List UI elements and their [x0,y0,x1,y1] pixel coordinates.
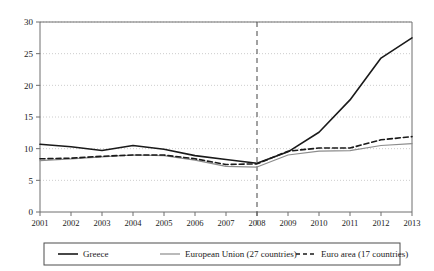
chart-background [0,0,434,271]
legend-box: GreeceEuropean Union (27 countries)Euro … [44,243,408,265]
legend-label-0: Greece [83,249,108,259]
x-tick-label-2010: 2010 [311,218,328,228]
y-tick-label-10: 10 [24,144,34,154]
y-tick-label-30: 30 [24,17,34,27]
line-chart: 051015202530 200120022003200420052006200… [0,0,434,271]
x-tick-label-2004: 2004 [125,218,143,228]
x-tick-label-2013: 2013 [404,218,421,228]
x-tick-label-2002: 2002 [63,218,80,228]
y-tick-label-20: 20 [24,81,34,91]
chart-page: 051015202530 200120022003200420052006200… [0,0,434,271]
x-tick-label-2009: 2009 [280,218,297,228]
legend-label-2: Euro area (17 countries) [321,249,408,259]
x-tick-label-2011: 2011 [342,218,359,228]
x-tick-label-2005: 2005 [156,218,173,228]
x-tick-label-2003: 2003 [94,218,111,228]
y-tick-label-5: 5 [29,176,34,186]
x-tick-label-2001: 2001 [32,218,49,228]
x-tick-label-2012: 2012 [373,218,390,228]
x-tick-label-2006: 2006 [187,218,204,228]
x-tick-label-2007: 2007 [218,218,235,228]
y-tick-label-0: 0 [29,207,34,217]
y-tick-label-25: 25 [24,49,34,59]
y-tick-label-15: 15 [24,112,34,122]
legend-label-1: European Union (27 countries) [185,249,297,259]
